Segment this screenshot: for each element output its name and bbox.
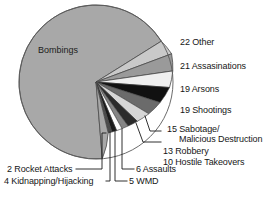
pie-slices [19,5,173,159]
slice-label-other: 22 Other [180,37,214,47]
slice-label-sabotage: 15 Sabotage/ Malicious Destruction [167,124,268,144]
slice-label-arsons: 19 Arsons [180,84,219,94]
slice-label-assaults: 6 Assaults [136,164,176,174]
slice-label-sabotage-line2: Malicious Destruction [167,134,268,144]
slice-label-wmd: 5 WMD [129,176,159,186]
slice-label-bombings: Bombings [38,45,78,55]
leader-robbery [145,116,161,131]
pie-chart-figure: Bombings 22 Other 21 Assasinations 19 Ar… [0,0,268,199]
slice-label-rocket-attacks: 2 Rocket Attacks [7,164,72,174]
slice-label-kidnapping-hijacking: 4 Kidnapping/Hijacking [4,176,93,186]
slice-label-robbery: 13 Robbery [163,146,209,156]
slice-label-assasinations: 21 Assasinations [180,61,246,71]
slice-label-shootings: 19 Shootings [180,105,231,115]
leader-assaults [122,129,134,169]
slice-label-sabotage-line1: 15 Sabotage/ [167,124,219,134]
